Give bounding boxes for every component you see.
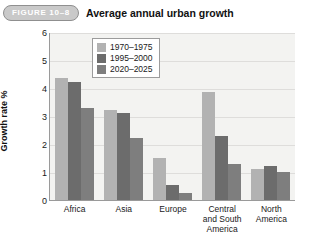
bar [55, 78, 68, 200]
bar [264, 166, 277, 200]
figure-number-badge: FIGURE 10–8 [3, 5, 79, 21]
x-axis-label: Europe [149, 204, 197, 234]
x-axis-label: Asia [100, 204, 148, 234]
legend-swatch [97, 54, 106, 63]
bar [68, 82, 81, 200]
bar [81, 108, 94, 200]
y-axis-tick-label: 3 [25, 113, 47, 122]
x-axis-labels: AfricaAsiaEuropeCentraland SouthAmericaN… [50, 204, 296, 234]
bar [153, 158, 166, 200]
bar [104, 110, 117, 200]
y-axis-tick-label: 1 [25, 169, 47, 178]
bar-group [55, 33, 94, 200]
y-axis-tick-label: 5 [25, 57, 47, 66]
y-axis-tick-label: 4 [25, 85, 47, 94]
legend-label: 1995–2000 [110, 53, 153, 63]
bar [117, 113, 130, 200]
figure-panel: FIGURE 10–8 Average annual urban growth … [0, 0, 309, 249]
bar [166, 185, 179, 200]
y-axis-tick-label: 6 [25, 29, 47, 38]
bar [251, 169, 264, 200]
bar-group [251, 33, 290, 200]
legend-label: 2020–2025 [110, 64, 153, 74]
bar [179, 193, 192, 200]
bar-group [202, 33, 241, 200]
legend-swatch [97, 65, 106, 74]
bar [130, 138, 143, 200]
x-axis-label: Centraland SouthAmerica [198, 204, 246, 234]
bar [277, 172, 290, 200]
legend-swatch [97, 43, 106, 52]
bar [215, 136, 228, 200]
plot-area [49, 33, 295, 201]
chart-legend: 1970–19751995–20002020–2025 [92, 38, 160, 78]
legend-item: 1970–1975 [97, 42, 153, 52]
y-axis-tick-label: 2 [25, 141, 47, 150]
x-axis-label: Africa [51, 204, 99, 234]
y-axis-ticks: 0123456 [17, 24, 47, 202]
bar [202, 92, 215, 200]
bar [228, 164, 241, 200]
bar-groups [50, 33, 295, 200]
chart-container: Growth rate % 0123456 AfricaAsiaEuropeCe… [3, 24, 306, 246]
legend-item: 1995–2000 [97, 53, 153, 63]
legend-label: 1970–1975 [110, 42, 153, 52]
x-axis-label: NorthAmerica [247, 204, 295, 234]
figure-title: Average annual urban growth [86, 7, 234, 19]
figure-header: FIGURE 10–8 Average annual urban growth [0, 3, 309, 23]
legend-item: 2020–2025 [97, 64, 153, 74]
y-axis-title: Growth rate % [0, 76, 9, 166]
y-axis-tick-label: 0 [25, 197, 47, 206]
